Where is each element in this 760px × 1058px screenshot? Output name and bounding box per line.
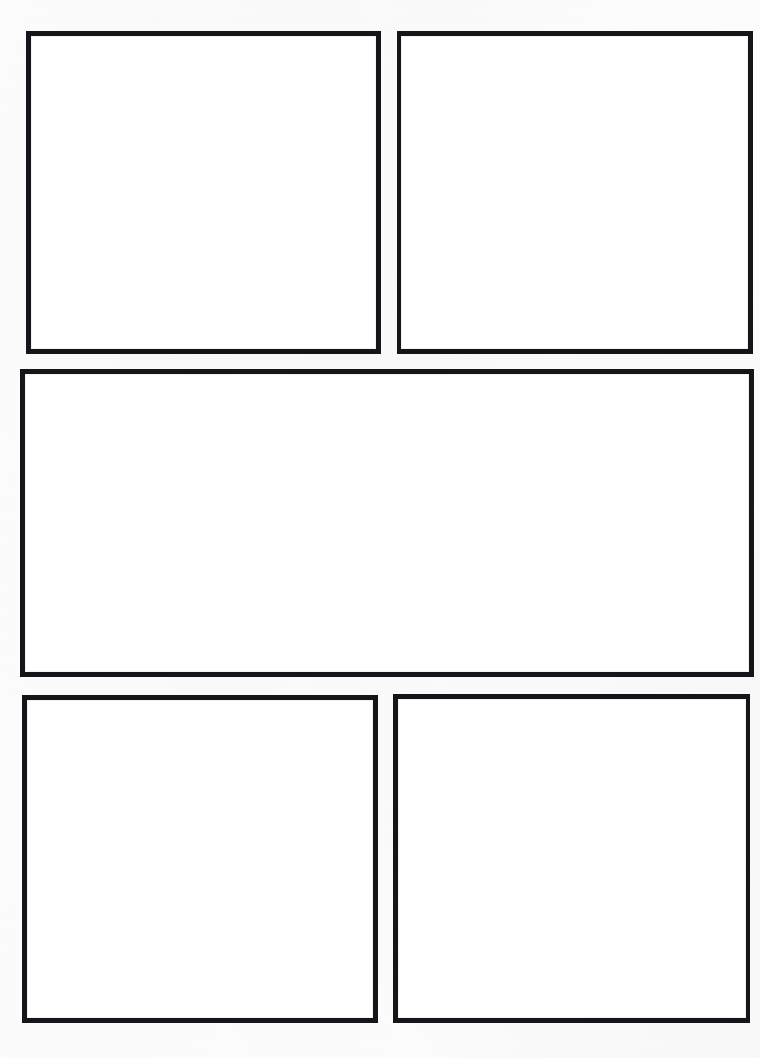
panel-content-area (31, 36, 376, 349)
panel-content-area (398, 699, 746, 1018)
comic-panel-top-left[interactable] (26, 31, 381, 354)
comic-panel-top-right[interactable] (397, 31, 753, 354)
comic-panel-bottom-left[interactable] (22, 695, 378, 1023)
comic-page (0, 0, 760, 1058)
comic-panel-middle-wide[interactable] (20, 369, 754, 677)
panel-content-area (401, 36, 748, 349)
comic-panel-bottom-right[interactable] (393, 694, 750, 1023)
panel-content-area (27, 700, 373, 1018)
panel-content-area (25, 374, 749, 672)
